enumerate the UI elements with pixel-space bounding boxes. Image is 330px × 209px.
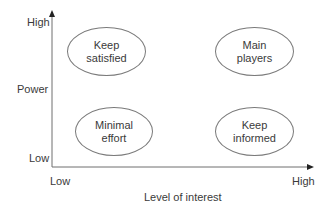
y-axis-title: Power [17, 83, 48, 95]
quadrant-label-line2: players [237, 52, 272, 65]
quadrant-label-line1: Minimal [95, 119, 133, 132]
quadrant-label-line1: Main [243, 39, 267, 52]
x-axis-low-label: Low [50, 175, 70, 187]
y-axis-low-label: Low [29, 152, 49, 164]
x-axis-arrow-icon [307, 164, 314, 170]
quadrant-label-line1: Keep [242, 119, 268, 132]
y-axis [49, 10, 55, 167]
quadrant-main-players: Main players [215, 27, 294, 76]
quadrant-minimal-effort: Minimal effort [75, 107, 153, 156]
x-axis [52, 164, 314, 170]
quadrant-label-line2: effort [102, 132, 127, 145]
quadrant-label-line1: Keep [94, 39, 120, 52]
quadrant-label-line2: satisfied [86, 52, 126, 65]
quadrant-label-line2: informed [233, 132, 276, 145]
y-axis-arrow-icon [49, 10, 55, 17]
quadrant-keep-satisfied: Keep satisfied [67, 27, 146, 76]
y-axis-high-label: High [27, 16, 50, 28]
power-interest-diagram: High Power Low Low High Level of interes… [0, 0, 330, 209]
x-axis-title: Level of interest [144, 191, 222, 203]
quadrant-keep-informed: Keep informed [215, 107, 294, 156]
x-axis-high-label: High [292, 175, 315, 187]
